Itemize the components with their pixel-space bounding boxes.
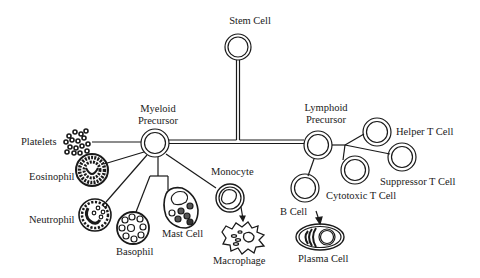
myeloid-precursor-label-line1: Myeloid bbox=[140, 103, 176, 115]
lymphoid-precursor-label-line1: Lymphoid bbox=[304, 102, 347, 114]
stem-cell-label: Stem Cell bbox=[229, 15, 271, 27]
mast-cell-icon bbox=[164, 188, 198, 228]
hematopoiesis-diagram: Stem Cell Myeloid Precursor Lymphoid Pre… bbox=[0, 0, 480, 278]
mast-cell-label: Mast Cell bbox=[162, 228, 203, 240]
macrophage-label: Macrophage bbox=[213, 255, 265, 267]
stem-connector bbox=[237, 60, 240, 140]
basophil-label: Basophil bbox=[116, 246, 153, 258]
plasma-cell-label: Plasma Cell bbox=[298, 253, 348, 265]
lymphoid-precursor-label-line2: Precursor bbox=[306, 114, 346, 126]
plasma-cell-icon bbox=[296, 224, 344, 250]
basophil-icon bbox=[117, 212, 149, 244]
eosinophil-icon bbox=[76, 154, 108, 186]
myeloid-precursor-label-line2: Precursor bbox=[138, 115, 178, 127]
helper-t-cell-label: Helper T Cell bbox=[396, 126, 453, 138]
b-cell-label: B Cell bbox=[280, 206, 307, 218]
stem-cell-icon bbox=[225, 34, 251, 60]
monocyte-icon bbox=[216, 184, 245, 221]
suppressor-t-cell-icon bbox=[388, 143, 416, 171]
platelets-label: Platelets bbox=[21, 136, 57, 148]
lymphoid-precursor-icon bbox=[304, 131, 332, 159]
monocyte-label: Monocyte bbox=[211, 166, 254, 178]
myeloid-precursor-icon bbox=[141, 129, 169, 157]
cytotoxic-t-cell-label: Cytotoxic T Cell bbox=[326, 190, 396, 202]
suppressor-t-cell-label: Suppressor T Cell bbox=[380, 176, 455, 188]
neutrophil-label: Neutrophil bbox=[29, 214, 75, 226]
macrophage-icon bbox=[222, 222, 264, 254]
myeloid-branch-connectors bbox=[104, 152, 216, 212]
platelets-icon bbox=[64, 129, 90, 155]
cytotoxic-t-cell-icon bbox=[341, 156, 369, 184]
diagram-graphics bbox=[0, 0, 480, 278]
eosinophil-label: Eosinophil bbox=[29, 171, 75, 183]
helper-t-cell-icon bbox=[363, 118, 391, 146]
main-trunk-connector bbox=[92, 140, 304, 144]
neutrophil-icon bbox=[79, 199, 111, 231]
